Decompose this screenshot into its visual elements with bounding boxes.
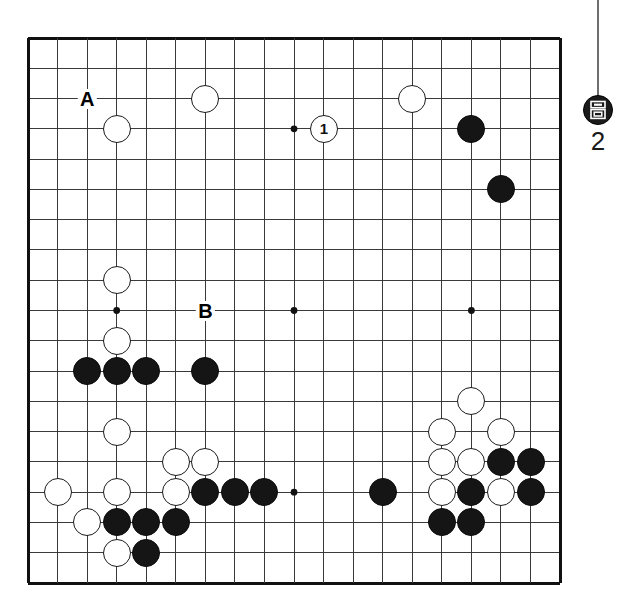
side-move-marker[interactable]: 2 xyxy=(574,0,617,170)
stone-white[interactable] xyxy=(103,539,131,567)
stone-black[interactable] xyxy=(73,357,101,385)
stone-white[interactable] xyxy=(103,418,131,446)
stone-black[interactable] xyxy=(369,478,397,506)
board-point-label-b: B xyxy=(196,301,214,321)
stone-black[interactable] xyxy=(487,448,515,476)
board-point-label-a: A xyxy=(78,89,96,109)
stone-black[interactable] xyxy=(132,539,160,567)
star-point xyxy=(291,307,298,314)
stone-white[interactable] xyxy=(398,85,426,113)
stone-white[interactable] xyxy=(103,478,131,506)
star-point xyxy=(291,125,298,132)
stone-white[interactable] xyxy=(103,115,131,143)
star-point xyxy=(291,489,298,496)
marker-move-number: 2 xyxy=(574,128,617,154)
stone-white[interactable] xyxy=(191,85,219,113)
stone-white[interactable] xyxy=(487,418,515,446)
stone-white[interactable] xyxy=(103,266,131,294)
stone-white[interactable] xyxy=(428,478,456,506)
marker-black-stone[interactable] xyxy=(583,95,613,125)
stone-white[interactable] xyxy=(162,478,190,506)
marker-tail-line xyxy=(597,0,599,96)
stone-white-numbered[interactable]: 1 xyxy=(310,115,338,143)
stone-black[interactable] xyxy=(103,508,131,536)
stone-white[interactable] xyxy=(162,448,190,476)
stone-move-number: 1 xyxy=(311,116,337,142)
stone-white[interactable] xyxy=(428,448,456,476)
captured-stone-mark-icon xyxy=(584,96,612,124)
stone-black[interactable] xyxy=(517,448,545,476)
star-point xyxy=(468,307,475,314)
stone-white[interactable] xyxy=(44,478,72,506)
star-point xyxy=(113,307,120,314)
stone-white[interactable] xyxy=(103,327,131,355)
go-diagram-figure: 1 AB 2 xyxy=(0,0,617,615)
stone-black[interactable] xyxy=(221,478,249,506)
stone-black[interactable] xyxy=(517,478,545,506)
go-board[interactable]: 1 AB xyxy=(0,0,580,600)
stone-white[interactable] xyxy=(428,418,456,446)
stone-black[interactable] xyxy=(103,357,131,385)
stone-white[interactable] xyxy=(487,478,515,506)
